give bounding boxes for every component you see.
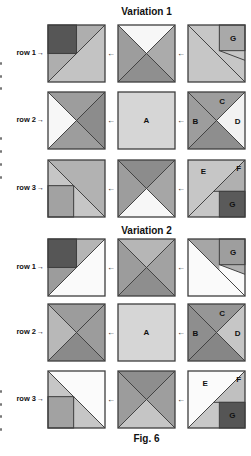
margin-text-fragment [0,415,2,418]
row-label: row 3→ [0,183,44,193]
connector-arrow-icon: ← [104,263,118,272]
quilt-block-x [48,304,105,361]
row-arrow-icon: → [37,263,44,270]
patch-label-G: G [230,248,236,257]
row-label-text: row 2 [16,327,36,336]
connector-arrow-icon: ← [104,184,118,193]
connector-arrow-icon: ← [104,49,118,58]
variation-title: Variation 1 [48,6,245,17]
row-label: row 2→ [0,115,44,125]
patch-label-G: G [229,411,235,420]
quilt-block-gcorner: G [188,25,245,82]
patch-label-A: A [144,328,150,337]
margin-text-fragment [0,62,2,65]
connector-arrow-icon: ← [174,184,188,193]
row-label: row 2→ [0,327,44,337]
row-label: row 3→ [0,394,44,404]
row-label: row 1→ [0,262,44,272]
margin-text-fragment [0,428,2,431]
quilt-block-x [118,160,175,217]
connector-arrow-icon: ← [174,116,188,125]
quilt-block-ssquare [48,371,105,428]
quilt-block-x: CBD [188,92,245,149]
margin-text-fragment [0,75,2,78]
quilt-block-plain: A [118,92,175,149]
row-label-text: row 3 [16,183,36,192]
patch-label-E: E [202,379,207,388]
connector-arrow-icon: ← [104,116,118,125]
row-arrow-icon: → [37,328,44,335]
patch-label-D: D [235,117,241,126]
patch-label-A: A [144,116,150,125]
quilt-block-efg: EFG [188,160,245,217]
patch-label-D: D [235,329,241,338]
quilt-block-x [48,92,105,149]
quilt-block-x [118,371,175,428]
margin-text-fragment [0,390,2,393]
margin-text-fragment [0,87,2,90]
connector-arrow-icon: ← [174,395,188,404]
quilt-block-x: CBD [188,304,245,361]
row-label-text: row 1 [16,48,36,57]
quilt-block-corner [48,239,105,296]
quilt-block-corner [48,25,105,82]
variation-title: Variation 2 [48,225,245,236]
patch-label-C: C [219,97,225,106]
row-arrow-icon: → [37,184,44,191]
row-arrow-icon: → [37,116,44,123]
quilt-block-efg: EFG [188,371,245,428]
patch-label-G: G [229,200,235,209]
row-label: row 1→ [0,48,44,58]
patch-label-B: B [193,117,199,126]
connector-arrow-icon: ← [104,328,118,337]
row-arrow-icon: → [37,49,44,56]
margin-text-fragment [0,403,2,406]
quilt-block-ssquare [48,160,105,217]
patch-label-F: F [236,375,241,384]
figure-page: Fig. 6 Variation 1row 1→←←Grow 2→←A←CBDr… [0,0,251,456]
row-label-text: row 3 [16,394,36,403]
connector-arrow-icon: ← [104,395,118,404]
quilt-block-plain: A [118,304,175,361]
patch-label-E: E [201,167,206,176]
patch-label-F: F [236,164,241,173]
row-label-text: row 2 [16,115,36,124]
margin-text-fragment [0,163,2,166]
quilt-block-x [118,25,175,82]
patch-label-C: C [219,309,225,318]
connector-arrow-icon: ← [174,263,188,272]
patch-label-G: G [230,34,236,43]
connector-arrow-icon: ← [174,49,188,58]
patch-label-B: B [193,329,199,338]
row-label-text: row 1 [16,262,36,271]
quilt-block-x [118,239,175,296]
connector-arrow-icon: ← [174,328,188,337]
figure-caption: Fig. 6 [48,433,245,444]
margin-text-fragment [0,137,2,140]
margin-text-fragment [0,176,2,179]
quilt-block-gcorner: G [188,239,245,296]
margin-text-fragment [0,150,2,153]
row-arrow-icon: → [37,395,44,402]
